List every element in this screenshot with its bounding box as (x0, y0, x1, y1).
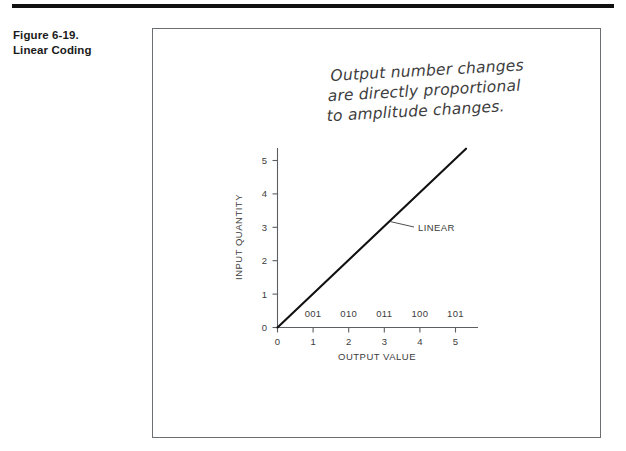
linear-transfer-line (278, 149, 467, 328)
y-tick-label: 1 (262, 289, 267, 300)
y-tick-label: 2 (262, 255, 267, 266)
x-tick-label: 4 (417, 336, 422, 347)
binary-code-label: 100 (412, 308, 429, 319)
y-tick-label: 4 (262, 188, 267, 199)
x-axis-title: OUTPUT VALUE (338, 351, 416, 362)
binary-code-label: 011 (376, 308, 392, 319)
y-axis-ticks (273, 161, 278, 328)
x-tick-label: 1 (310, 336, 315, 347)
binary-code-label: 101 (447, 308, 464, 319)
x-tick-label: 5 (453, 336, 458, 347)
binary-code-label: 001 (305, 308, 322, 319)
linear-callout-leader (390, 222, 414, 228)
binary-code-labels: 001 010 011 100 101 (305, 308, 464, 319)
x-tick-label: 2 (346, 336, 351, 347)
x-axis-tick-labels: 0 1 2 3 4 5 (275, 336, 458, 347)
linear-series-label: LINEAR (418, 222, 455, 233)
x-axis-ticks (278, 328, 456, 333)
y-axis-tick-labels: 0 1 2 3 4 5 (262, 155, 267, 333)
y-axis-title: INPUT QUANTITY (233, 194, 244, 280)
linear-coding-chart: 0 1 2 3 4 5 0 1 2 3 4 5 001 010 (0, 0, 626, 451)
x-tick-label: 0 (275, 336, 280, 347)
binary-code-label: 010 (340, 308, 357, 319)
y-tick-label: 3 (262, 222, 267, 233)
y-tick-label: 0 (262, 322, 267, 333)
x-tick-label: 3 (382, 336, 387, 347)
y-tick-label: 5 (262, 155, 267, 166)
